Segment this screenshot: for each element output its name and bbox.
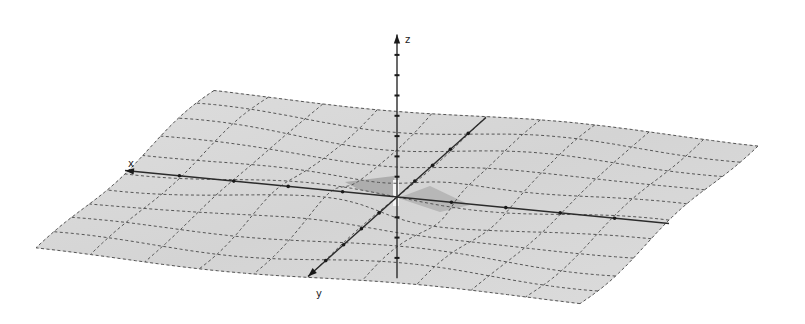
z-axis-label: z bbox=[405, 34, 410, 45]
surface-highlight bbox=[393, 180, 399, 206]
z-axis-tick bbox=[395, 74, 400, 76]
z-axis-tick bbox=[395, 95, 400, 97]
x-axis-tick bbox=[178, 174, 182, 178]
y-axis-tick bbox=[342, 243, 346, 247]
x-axis-tick bbox=[286, 185, 290, 189]
z-axis-tick bbox=[395, 216, 400, 218]
z-axis-tick bbox=[395, 257, 400, 259]
x-axis-label: x bbox=[128, 158, 134, 169]
x-axis-tick bbox=[504, 206, 508, 210]
z-axis-tick bbox=[395, 115, 400, 117]
z-axis-arrow-icon bbox=[394, 35, 400, 44]
z-axis-tick bbox=[395, 176, 400, 178]
y-axis-tick bbox=[431, 163, 435, 167]
z-axis-tick bbox=[395, 54, 400, 56]
x-axis-tick bbox=[232, 179, 236, 183]
y-axis-tick bbox=[324, 259, 328, 263]
x-axis-tick bbox=[558, 211, 562, 215]
z-axis-tick bbox=[395, 155, 400, 157]
y-axis-tick bbox=[466, 132, 470, 136]
x-axis-tick bbox=[613, 216, 617, 220]
z-axis-tick bbox=[395, 237, 400, 239]
x-axis-tick bbox=[341, 190, 345, 194]
z-axis-tick bbox=[395, 135, 400, 137]
y-axis-tick bbox=[413, 179, 417, 183]
x-axis-tick bbox=[450, 201, 454, 205]
y-axis-tick bbox=[377, 211, 381, 215]
y-axis-label: y bbox=[316, 288, 322, 299]
y-axis-tick bbox=[449, 148, 453, 152]
surface-plot-3d[interactable]: x y z bbox=[0, 0, 805, 324]
y-axis-tick bbox=[360, 227, 364, 231]
